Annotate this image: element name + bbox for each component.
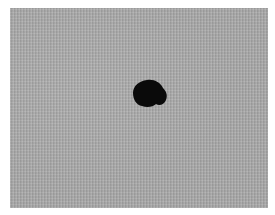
fabric-photo [10,8,268,208]
dark-spot [130,78,170,110]
spot-shape [133,80,167,107]
